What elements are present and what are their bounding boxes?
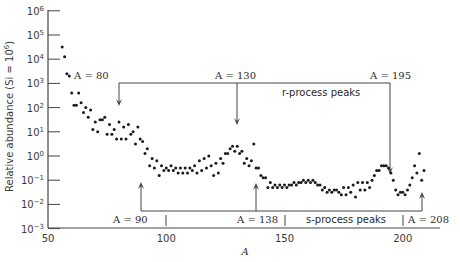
data-point	[356, 181, 359, 184]
s-label-a138: A = 138	[236, 214, 278, 225]
data-point	[210, 164, 213, 167]
data-point	[311, 179, 314, 182]
x-axis-label: A	[240, 246, 248, 257]
data-point	[217, 171, 220, 174]
data-point	[323, 186, 326, 189]
data-point	[84, 106, 87, 109]
r-process-title: r-process peaks	[282, 87, 360, 98]
data-point	[281, 186, 284, 189]
data-point	[80, 101, 83, 104]
data-point	[248, 164, 251, 167]
data-point	[113, 128, 116, 131]
x-tick-label: 50	[42, 233, 55, 244]
data-point	[96, 130, 99, 133]
data-point	[191, 169, 194, 172]
y-tick-label: 101	[27, 126, 44, 138]
data-point	[127, 123, 130, 126]
data-point	[186, 171, 189, 174]
data-point	[181, 171, 184, 174]
x-tick-label: 200	[393, 233, 412, 244]
data-point	[271, 186, 274, 189]
data-point	[214, 162, 217, 165]
data-point	[349, 191, 352, 194]
data-point	[136, 126, 139, 129]
data-point	[139, 138, 142, 141]
data-point	[87, 116, 90, 119]
data-point	[177, 171, 180, 174]
data-point	[276, 186, 279, 189]
data-point	[144, 152, 147, 155]
data-point	[233, 150, 236, 153]
data-point	[283, 184, 286, 187]
data-point	[229, 147, 232, 150]
data-point	[118, 121, 121, 124]
data-point	[326, 191, 329, 194]
data-point	[153, 167, 156, 170]
data-point	[108, 123, 111, 126]
data-point	[65, 72, 68, 75]
data-point	[304, 181, 307, 184]
data-point	[330, 191, 333, 194]
data-point	[413, 164, 416, 167]
data-points	[61, 46, 426, 199]
data-point	[205, 167, 208, 170]
data-point	[134, 142, 137, 145]
data-point	[347, 186, 350, 189]
data-point	[68, 75, 71, 78]
data-point	[120, 138, 123, 141]
data-point	[115, 138, 118, 141]
data-point	[342, 186, 345, 189]
data-point	[394, 188, 397, 191]
data-point	[278, 184, 281, 187]
data-point	[337, 191, 340, 194]
abundance-chart: 10610510410310210110010−110−210−3 501001…	[0, 0, 460, 262]
data-point	[354, 196, 357, 199]
data-point	[259, 174, 262, 177]
s-label-a208: A = 208	[407, 214, 449, 225]
data-point	[162, 169, 165, 172]
data-point	[198, 159, 201, 162]
data-point	[158, 174, 161, 177]
data-point	[174, 167, 177, 170]
data-point	[250, 159, 253, 162]
data-point	[352, 184, 355, 187]
data-point	[335, 188, 338, 191]
data-point	[415, 171, 418, 174]
data-point	[266, 186, 269, 189]
data-point	[179, 167, 182, 170]
data-point	[371, 179, 374, 182]
data-point	[274, 184, 277, 187]
data-point	[188, 167, 191, 170]
data-point	[226, 152, 229, 155]
data-point	[245, 157, 248, 160]
data-point	[408, 184, 411, 187]
data-point	[110, 133, 113, 136]
data-point	[129, 133, 132, 136]
data-point	[160, 164, 163, 167]
data-point	[418, 152, 421, 155]
data-point	[231, 145, 234, 148]
y-tick-label: 100	[27, 150, 44, 162]
x-ticks: 50100150200	[42, 233, 413, 244]
data-point	[328, 188, 331, 191]
data-point	[423, 169, 426, 172]
y-tick-label: 106	[27, 5, 45, 17]
y-tick-label: 105	[27, 29, 44, 41]
data-point	[75, 104, 78, 107]
data-point	[257, 167, 260, 170]
data-point	[340, 193, 343, 196]
data-point	[385, 164, 388, 167]
data-point	[264, 176, 267, 179]
data-point	[387, 167, 390, 170]
data-point	[132, 130, 135, 133]
data-point	[243, 162, 246, 165]
data-point	[207, 155, 210, 158]
data-point	[219, 157, 222, 160]
data-point	[151, 157, 154, 160]
data-point	[89, 109, 92, 112]
data-point	[148, 164, 151, 167]
data-point	[363, 188, 366, 191]
data-point	[203, 157, 206, 160]
data-point	[141, 140, 144, 143]
data-point	[307, 179, 310, 182]
